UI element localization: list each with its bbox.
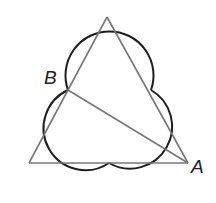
side-top-to-A	[107, 17, 188, 163]
right-arc	[109, 90, 172, 169]
label-B: B	[44, 68, 57, 87]
top-arc	[66, 31, 154, 90]
triangle-with-arcs-figure	[0, 0, 216, 203]
left-arc	[44, 90, 109, 170]
geometry-diagram: B A	[0, 0, 216, 203]
label-A: A	[191, 157, 204, 176]
segment-B-to-A	[68, 90, 188, 163]
